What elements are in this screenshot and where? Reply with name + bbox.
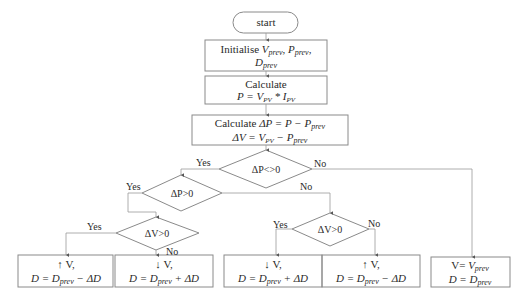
start-label: start: [257, 16, 276, 28]
flowchart: start Initialise Vprev, Pprev, Dprev Cal…: [0, 0, 530, 303]
outcome-2-line2: D = Dprev + ΔD: [128, 272, 199, 286]
connector-dv-right-yes: [276, 229, 292, 255]
label-no-dv-right: No: [368, 218, 380, 229]
connector-dv-left-yes: [66, 233, 116, 255]
init-text-line1: Initialise Vprev, Pprev,: [221, 43, 312, 57]
outcome-2-line1: ↓ V,: [155, 258, 173, 270]
label-yes-dp-nonzero: Yes: [196, 157, 211, 168]
decision-dp-positive-label: ΔP>0: [171, 188, 194, 199]
outcome-5-line2: D = Dprev: [448, 273, 492, 287]
label-no-dp-nonzero: No: [314, 158, 326, 169]
decision-dv-left-label: ΔV>0: [145, 228, 169, 239]
connector-dp-positive-no: [222, 193, 330, 213]
decision-dv-right-label: ΔV>0: [318, 224, 342, 235]
calc-delta-line2: ΔV = VPV − Pprev: [232, 131, 308, 145]
outcome-3-line1: ↓ V,: [264, 258, 282, 270]
connector-dv-right-no: [369, 229, 375, 255]
init-text-line2: Dprev: [254, 56, 277, 70]
connector-dp-positive-yes: [128, 193, 156, 217]
label-no-dp-positive: No: [300, 181, 312, 192]
decision-dp-nonzero-label: ΔP<>0: [252, 164, 280, 175]
label-yes-dv-right: Yes: [273, 219, 288, 230]
label-yes-dv-left: Yes: [87, 221, 102, 232]
outcome-3-line2: D = Dprev + ΔD: [237, 272, 308, 286]
calc-delta-line1: Calculate ΔP = P − Pprev: [215, 117, 326, 131]
label-yes-dp-positive: Yes: [126, 181, 141, 192]
calc-power-line2: P = VPV * IPV: [236, 90, 296, 104]
outcome-1-line1: ↑ V,: [57, 258, 75, 270]
outcome-4-line2: D = Dprev − ΔD: [335, 272, 406, 286]
label-no-dv-left: No: [166, 246, 178, 257]
calc-power-line1: Calculate: [245, 78, 287, 90]
outcome-1-line2: D = Dprev − ΔD: [30, 272, 101, 286]
outcome-5-line1: V= Vprev: [451, 259, 489, 273]
outcome-4-line1: ↑ V,: [362, 258, 380, 270]
connector-dp-nonzero-yes: [181, 169, 219, 175]
